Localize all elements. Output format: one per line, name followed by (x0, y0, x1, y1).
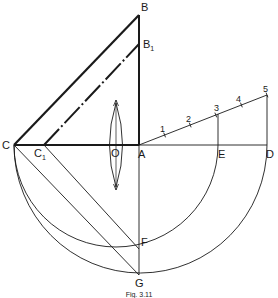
division-label-3: 3 (214, 103, 219, 113)
label-A: A (138, 148, 146, 160)
division-label-1: 1 (160, 124, 165, 134)
label-G: G (135, 277, 144, 289)
line-A5 (139, 95, 267, 145)
semicircle-CD (14, 145, 267, 273)
label-F: F (141, 236, 148, 248)
division-ticks (164, 93, 268, 138)
division-label-4: 4 (236, 94, 241, 104)
label-B: B (141, 1, 148, 13)
label-B1: B1 (143, 38, 154, 52)
geometry-diagram: B B1 C C1 O A E D F G 1 2 3 4 5 Fig. 3.1… (0, 0, 278, 298)
figure-caption: Fig. 3.11 (126, 291, 153, 298)
line-C1F (44, 145, 139, 249)
division-label-5: 5 (263, 84, 268, 94)
line-C1B1 (44, 44, 139, 145)
label-D: D (266, 148, 274, 160)
line-CB (14, 15, 139, 145)
label-E: E (218, 148, 225, 160)
division-label-2: 2 (186, 114, 191, 124)
label-O: O (111, 147, 120, 159)
label-C1: C1 (34, 147, 46, 161)
label-C: C (2, 139, 10, 151)
